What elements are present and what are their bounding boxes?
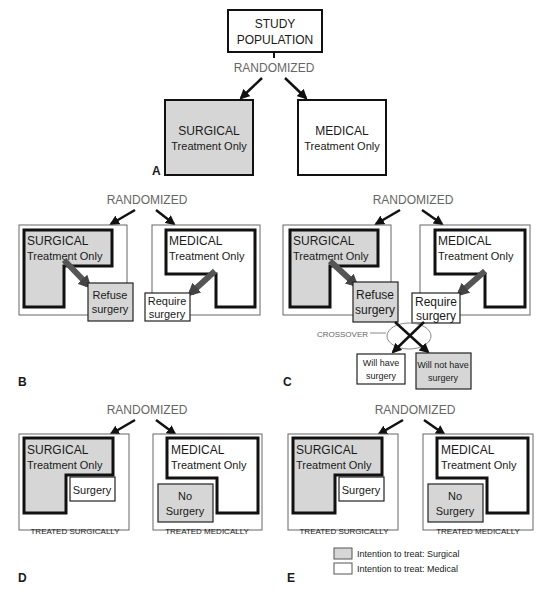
- panel-label-c: C: [283, 375, 292, 389]
- will-have-line2: surgery: [366, 371, 397, 381]
- require-line2: surgery: [149, 308, 186, 320]
- legend-swatch-surgical: [334, 548, 352, 559]
- medical-subtitle: Treatment Only: [171, 459, 247, 471]
- will-have-line1: Will have: [363, 358, 400, 368]
- legend-swatch-medical: [334, 563, 352, 574]
- arrow-to-medical: [156, 420, 175, 434]
- panel-label-e: E: [287, 571, 295, 585]
- no-surgery-line2: Surgery: [166, 505, 205, 517]
- surgical-subtitle: Treatment Only: [296, 459, 372, 471]
- study-population-line1: STUDY: [255, 17, 296, 31]
- panel-e: RANDOMIZED SURGICAL Treatment Only Surge…: [287, 403, 533, 585]
- randomized-label: RANDOMIZED: [107, 403, 188, 417]
- medical-title: MEDICAL: [441, 443, 495, 457]
- refuse-line1: Refuse: [356, 288, 394, 302]
- medical-title: MEDICAL: [171, 443, 225, 457]
- no-surgery-line2: Surgery: [436, 505, 475, 517]
- crossover-label: CROSSOVER: [317, 330, 368, 339]
- arrow-to-medical: [422, 210, 442, 224]
- refuse-line2: surgery: [355, 303, 395, 317]
- refuse-line2: surgery: [92, 303, 129, 315]
- medical-title: MEDICAL: [169, 234, 223, 248]
- treated-surgically-label: TREATED SURGICALLY: [299, 527, 389, 536]
- legend: Intention to treat: Surgical Intention t…: [334, 548, 460, 574]
- arrow-to-surgical: [376, 210, 400, 224]
- surgery-label: Surgery: [73, 484, 112, 496]
- legend-label-surgical: Intention to treat: Surgical: [357, 549, 460, 559]
- randomized-label: RANDOMIZED: [107, 193, 188, 207]
- require-line1: Require: [415, 295, 457, 309]
- surgical-subtitle: Treatment Only: [171, 140, 247, 152]
- surgical-title: SURGICAL: [296, 443, 358, 457]
- panel-a: STUDY POPULATION RANDOMIZED SURGICAL Tre…: [152, 10, 386, 178]
- panel-b: RANDOMIZED SURGICAL Treatment Only Refus…: [18, 193, 260, 389]
- arrow-to-medical: [285, 78, 306, 98]
- arrow-to-surgical: [111, 210, 135, 224]
- panel-label-b: B: [18, 375, 27, 389]
- randomized-label: RANDOMIZED: [373, 193, 454, 207]
- randomized-label: RANDOMIZED: [375, 403, 456, 417]
- medical-title: MEDICAL: [438, 234, 492, 248]
- arrow-to-surgical: [379, 420, 403, 434]
- panel-c: RANDOMIZED SURGICAL Treatment Only Refus…: [283, 193, 530, 389]
- arrow-to-medical: [156, 210, 174, 224]
- require-line2: surgery: [416, 309, 456, 323]
- surgical-title: SURGICAL: [178, 124, 240, 138]
- panel-d: RANDOMIZED SURGICAL Treatment Only Surge…: [18, 403, 262, 585]
- surgery-label: Surgery: [342, 484, 381, 496]
- require-line1: Require: [148, 295, 187, 307]
- study-population-line2: POPULATION: [237, 33, 313, 47]
- medical-subtitle: Treatment Only: [441, 459, 517, 471]
- will-not-have-line1: Will not have: [417, 360, 469, 370]
- medical-subtitle: Treatment Only: [169, 250, 245, 262]
- randomized-label: RANDOMIZED: [234, 61, 315, 75]
- arrow-to-surgical: [111, 420, 135, 434]
- itt-diagram: STUDY POPULATION RANDOMIZED SURGICAL Tre…: [0, 0, 547, 598]
- panel-label-d: D: [18, 571, 27, 585]
- panel-label-a: A: [152, 164, 161, 178]
- medical-subtitle: Treatment Only: [438, 250, 514, 262]
- arrow-to-medical: [424, 420, 444, 434]
- surgical-subtitle: Treatment Only: [27, 459, 103, 471]
- surgical-title: SURGICAL: [27, 443, 89, 457]
- medical-title: MEDICAL: [315, 124, 369, 138]
- will-not-have-surgery-box: [416, 353, 471, 389]
- treated-surgically-label: TREATED SURGICALLY: [30, 527, 120, 536]
- arrow-to-surgical: [241, 78, 262, 98]
- will-not-have-line2: surgery: [428, 373, 459, 383]
- treated-medically-label: TREATED MEDICALLY: [436, 527, 520, 536]
- legend-label-medical: Intention to treat: Medical: [357, 564, 458, 574]
- refuse-line1: Refuse: [93, 289, 128, 301]
- surgical-title: SURGICAL: [293, 234, 355, 248]
- no-surgery-line1: No: [448, 490, 462, 502]
- no-surgery-line1: No: [178, 490, 192, 502]
- surgical-title: SURGICAL: [27, 234, 89, 248]
- treated-medically-label: TREATED MEDICALLY: [165, 527, 249, 536]
- medical-subtitle: Treatment Only: [304, 140, 380, 152]
